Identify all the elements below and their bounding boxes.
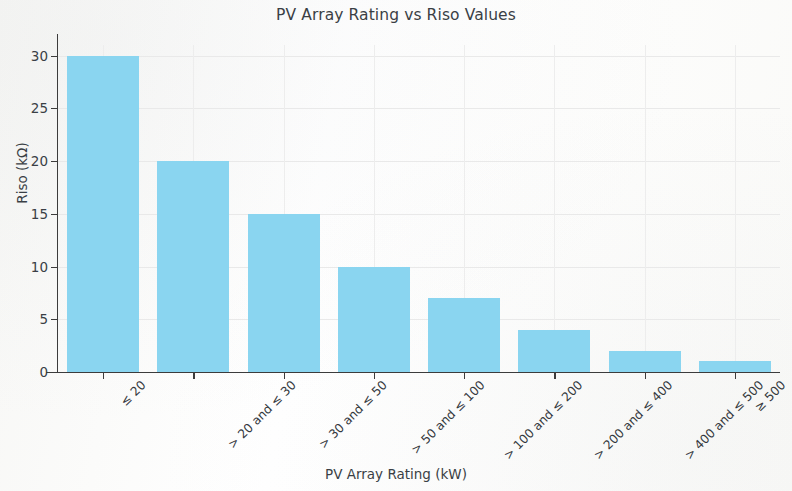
y-tick-label: 5 [0,311,48,327]
chart-screenshot: PV Array Rating vs Riso Values 051015202… [0,0,792,491]
bar [609,351,681,372]
y-tick-mark [51,56,58,57]
chart-title: PV Array Rating vs Riso Values [0,6,792,24]
gridline-horizontal [58,108,780,109]
bar [428,298,500,372]
bar [157,161,229,372]
y-axis-title: Riso (kΩ) [14,113,30,233]
gridline-horizontal [58,56,780,57]
bar [338,267,410,372]
x-tick-mark [193,372,194,379]
y-axis-line [57,34,58,373]
bar [248,214,320,372]
y-tick-label: 10 [0,259,48,275]
gridline-vertical [554,45,555,372]
x-tick-label: > 200 and ≤ 400 [591,378,675,462]
x-tick-label: > 30 and ≤ 50 [316,378,389,451]
x-axis-title: PV Array Rating (kW) [0,466,792,482]
bar [67,56,139,372]
x-axis-line [46,372,780,373]
y-tick-label: 0 [0,364,48,380]
gridline-vertical [735,45,736,372]
x-tick-mark [645,372,646,379]
x-tick-label: > 100 and ≤ 200 [501,378,585,462]
x-tick-mark [735,372,736,379]
x-tick-mark [554,372,555,379]
bar [518,330,590,372]
y-tick-mark [51,214,58,215]
y-tick-mark [51,267,58,268]
x-tick-label: > 400 and ≤ 500 [681,378,765,462]
x-tick-label: > 50 and ≤ 100 [408,378,487,457]
y-tick-mark [51,372,58,373]
x-tick-mark [464,372,465,379]
gridline-vertical [645,45,646,372]
y-tick-mark [51,319,58,320]
x-tick-label: ≤ 20 [118,378,149,409]
y-tick-mark [51,108,58,109]
y-tick-mark [51,161,58,162]
plot-area [58,45,780,372]
x-tick-mark [103,372,104,379]
x-tick-mark [284,372,285,379]
y-tick-label: 30 [0,48,48,64]
bar [699,361,771,372]
x-tick-label: > 20 and ≤ 30 [226,378,299,451]
x-tick-mark [374,372,375,379]
